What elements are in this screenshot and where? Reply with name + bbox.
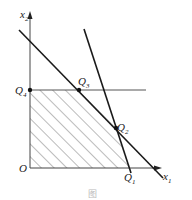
x1-axis-label: x1	[162, 170, 171, 185]
q1-label: Q1	[124, 171, 135, 186]
origin-label: O	[19, 162, 27, 174]
vertex-q3	[77, 88, 81, 92]
vertex-q4	[28, 88, 32, 92]
x2-axis-label: x2	[19, 8, 29, 23]
q3-label: Q3	[78, 75, 90, 90]
q4-label: Q4	[15, 84, 27, 99]
figure-caption: 图	[88, 189, 97, 199]
lp-diagram: x2 x1 O Q4 Q3 Q2 Q1 图	[0, 0, 192, 200]
